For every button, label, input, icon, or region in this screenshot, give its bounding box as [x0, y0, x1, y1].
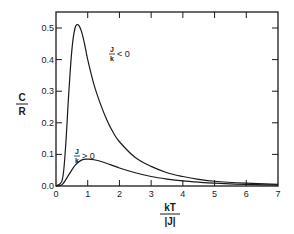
x-tick-label: 3 [149, 189, 154, 199]
y-tick-label: 0.4 [41, 55, 54, 65]
x-tick-label: 0 [53, 189, 58, 199]
x-axis-ticks: 01234567 [53, 12, 280, 199]
curve-j-negative [56, 24, 278, 186]
y-tick-label: 0.2 [41, 118, 54, 128]
curves [56, 24, 278, 186]
annotation-relation: > 0 [82, 151, 95, 161]
x-label-denominator: |J| [164, 216, 175, 227]
annotation-denominator: k [110, 55, 114, 62]
x-tick-label: 6 [244, 189, 249, 199]
x-tick-label: 1 [85, 189, 90, 199]
x-tick-label: 5 [212, 189, 217, 199]
annotation-numerator: J [110, 46, 114, 53]
y-tick-label: 0.5 [41, 23, 54, 33]
y-label-numerator: C [18, 92, 25, 103]
x-axis-label: kT|J| [160, 202, 180, 227]
annotation-relation: < 0 [117, 49, 130, 59]
annotation-j-positive: Jk> 0 [74, 148, 95, 164]
chart: 01234567 0.00.10.20.30.40.5 Jk< 0Jk> 0 C… [0, 0, 294, 234]
annotation-numerator: J [75, 148, 79, 155]
x-tick-label: 4 [180, 189, 185, 199]
x-tick-label: 7 [275, 189, 280, 199]
annotation-j-negative: Jk< 0 [109, 46, 130, 62]
x-label-numerator: kT [164, 202, 176, 213]
y-tick-label: 0.0 [41, 181, 54, 191]
annotation-denominator: k [75, 157, 79, 164]
y-tick-label: 0.1 [41, 149, 54, 159]
axis-labels: CRkT|J| [16, 92, 180, 227]
y-label-denominator: R [18, 106, 26, 117]
curve-annotations: Jk< 0Jk> 0 [74, 46, 130, 164]
y-axis-label: CR [16, 92, 28, 117]
y-axis-ticks: 0.00.10.20.30.40.5 [41, 23, 278, 191]
y-tick-label: 0.3 [41, 86, 54, 96]
x-tick-label: 2 [117, 189, 122, 199]
